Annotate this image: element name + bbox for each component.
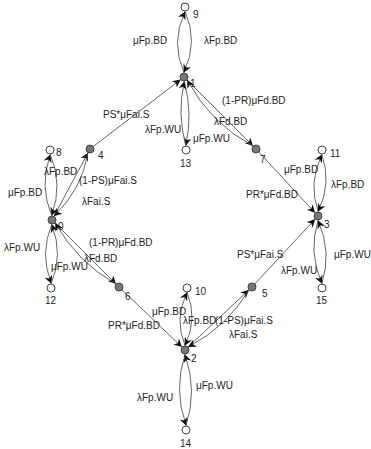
state-node-15 — [318, 284, 326, 292]
node-id-label: 4 — [98, 150, 104, 161]
edge-0-to-8 — [45, 155, 52, 216]
state-node-6 — [115, 283, 123, 291]
node-id-label: 1 — [190, 78, 196, 89]
state-node-12 — [47, 284, 55, 292]
edge-label: λFp.BD — [204, 35, 237, 46]
edge-9-to-1 — [184, 11, 191, 72]
node-id-label: 14 — [180, 438, 192, 449]
edge-7-to-3 — [259, 152, 315, 212]
edge-label: λFai.S — [229, 329, 258, 340]
nodes-layer: 0123456789101112131415 — [45, 3, 341, 449]
edge-label: λFp.BD — [44, 166, 77, 177]
edge-label: μFp.WU — [51, 261, 88, 272]
state-node-9 — [181, 3, 189, 11]
state-diagram: λFp.BDμFp.BDλFp.WUμFp.WUPS*μFai.SλFd.BD(… — [0, 0, 371, 449]
edge-label: λFai.S — [82, 196, 111, 207]
state-node-1 — [180, 73, 188, 81]
edge-label: μFp.BD — [284, 164, 318, 175]
edge-14-to-2 — [185, 355, 191, 426]
node-id-label: 3 — [324, 219, 330, 230]
edge-label: μFp.BD — [8, 187, 42, 198]
node-id-label: 12 — [45, 295, 57, 306]
state-node-10 — [183, 284, 191, 292]
edge-label: λFp.WU — [137, 392, 173, 403]
edge-11-to-3 — [318, 154, 326, 211]
node-id-label: 11 — [330, 148, 341, 159]
transition-graph: λFp.BDμFp.BDλFp.WUμFp.WUPS*μFai.SλFd.BD(… — [0, 0, 371, 449]
edge-label: PS*μFai.S — [237, 249, 284, 260]
edge-label: PR*μFd.BD — [108, 320, 160, 331]
edge-label: μFp.WU — [196, 380, 233, 391]
edge-label: PS*μFai.S — [103, 109, 150, 120]
edge-8-to-0 — [50, 154, 57, 215]
state-node-8 — [46, 146, 54, 154]
edge-label: (1-PS)μFai.S — [79, 175, 137, 186]
node-id-label: 5 — [262, 288, 268, 299]
state-node-13 — [182, 146, 190, 154]
state-node-7 — [252, 145, 260, 153]
edge-15-to-3 — [318, 221, 326, 284]
node-id-label: 13 — [180, 158, 192, 169]
edge-12-to-0 — [51, 225, 57, 284]
node-id-label: 15 — [316, 295, 328, 306]
state-node-5 — [248, 283, 256, 291]
edge-label: (1-PR)μFd.BD — [89, 237, 153, 248]
node-id-label: 7 — [260, 154, 266, 165]
edge-label: λFp.BD — [183, 315, 216, 326]
edge-label: λFd.BD — [84, 253, 117, 264]
state-node-0 — [48, 216, 56, 224]
edge-label: λFp.WU — [281, 265, 317, 276]
state-node-3 — [314, 212, 322, 220]
edge-label: μFp.WU — [193, 133, 230, 144]
edge-13-to-1 — [181, 82, 186, 146]
edge-label: μFp.WU — [334, 249, 371, 260]
state-node-14 — [182, 426, 190, 434]
edge-label: (1-PR)μFd.BD — [222, 95, 286, 106]
node-id-label: 9 — [193, 9, 199, 20]
edge-label: λFp.WU — [4, 242, 40, 253]
edge-0-to-12 — [46, 224, 52, 283]
edge-label: μFp.BD — [133, 35, 167, 46]
edge-label: λFp.BD — [331, 179, 364, 190]
edge-2-to-14 — [179, 354, 185, 425]
edge-1-to-9 — [177, 12, 184, 73]
edge-6-to-2 — [122, 290, 181, 347]
node-id-label: 10 — [195, 286, 207, 297]
edge-label: μFp.BD — [152, 306, 186, 317]
node-id-label: 6 — [125, 291, 131, 302]
state-node-11 — [318, 146, 326, 154]
state-node-2 — [181, 346, 189, 354]
node-id-label: 0 — [58, 221, 64, 232]
state-node-4 — [86, 145, 94, 153]
edge-label: λFp.WU — [145, 124, 181, 135]
node-id-label: 8 — [56, 147, 62, 158]
edge-label: λFd.BD — [214, 116, 247, 127]
edge-label: (1-PS)μFai.S — [215, 315, 273, 326]
edge-1-to-13 — [184, 81, 189, 145]
node-id-label: 2 — [191, 353, 197, 364]
edge-label: PR*μFd.BD — [246, 189, 298, 200]
